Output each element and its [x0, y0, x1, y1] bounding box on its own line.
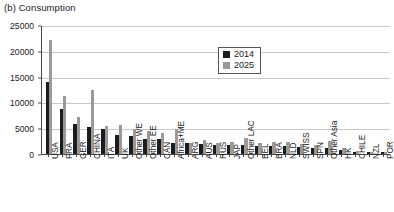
x-tick-mark	[341, 154, 342, 157]
x-tick-label: CAN	[163, 142, 172, 159]
y-tick-label: 5000	[15, 124, 34, 134]
y-tick-label: 25000	[10, 21, 34, 31]
x-tick-mark	[104, 154, 105, 157]
legend-entry-2025: 2025	[223, 61, 254, 70]
chart-title: (b) Consumption	[4, 2, 76, 13]
x-tick-label: NZL	[372, 144, 381, 159]
x-tick-label: Other EE	[149, 125, 158, 159]
x-tick-mark	[160, 154, 161, 157]
x-axis: USAFRAGERCHINAITAUKOther WEOther EECANAf…	[41, 157, 390, 212]
y-tick-label: 15000	[10, 73, 34, 83]
x-tick-mark	[76, 154, 77, 157]
bar-group	[223, 26, 237, 154]
chart-legend: 20142025	[218, 47, 261, 74]
x-tick-label: Other WE	[135, 123, 144, 159]
x-tick-label: GER	[79, 141, 88, 159]
x-tick-mark	[174, 154, 175, 157]
x-tick-label: NLD	[289, 143, 298, 159]
x-tick-label: POR	[386, 141, 394, 159]
legend-label: 2014	[234, 50, 254, 59]
y-tick-label: 10000	[10, 98, 34, 108]
bar-group	[196, 26, 210, 154]
x-tick-label: Other LAC	[247, 120, 256, 159]
y-tick-label: 0	[29, 150, 34, 160]
bar-group	[70, 26, 84, 154]
legend-label: 2025	[234, 61, 254, 70]
bar-group	[42, 26, 56, 154]
x-tick-label: CHINA	[93, 134, 102, 159]
x-tick-mark	[118, 154, 119, 157]
consumption-bar-chart-figure: (b) Consumption 050001000015000200002500…	[0, 0, 394, 212]
x-tick-mark	[188, 154, 189, 157]
x-tick-label: USA	[51, 142, 60, 159]
x-tick-mark	[202, 154, 203, 157]
x-tick-mark	[132, 154, 133, 157]
bar-group	[279, 26, 293, 154]
x-tick-mark	[285, 154, 286, 157]
x-tick-mark	[299, 154, 300, 157]
x-tick-label: Other Asia	[330, 121, 339, 159]
x-tick-label: SWISS	[302, 133, 311, 159]
x-tick-mark	[243, 154, 244, 157]
legend-entry-2014: 2014	[223, 50, 254, 59]
x-tick-label: FRA	[65, 143, 74, 159]
x-tick-mark	[369, 154, 370, 157]
x-tick-label: UK	[121, 148, 130, 159]
x-tick-mark	[90, 154, 91, 157]
x-tick-mark	[229, 154, 230, 157]
x-tick-mark	[271, 154, 272, 157]
y-tick-label: 20000	[10, 47, 34, 57]
y-axis: 0500010000150002000025000	[0, 26, 38, 155]
x-tick-mark	[327, 154, 328, 157]
legend-swatch-icon	[223, 51, 230, 58]
x-tick-mark	[146, 154, 147, 157]
x-tick-mark	[383, 154, 384, 157]
x-tick-label: SPN	[316, 142, 325, 159]
x-tick-label: RUS	[219, 142, 228, 159]
x-tick-mark	[257, 154, 258, 157]
x-tick-mark	[216, 154, 217, 157]
x-tick-mark	[313, 154, 314, 157]
x-tick-mark	[355, 154, 356, 157]
bar-group	[112, 26, 126, 154]
x-tick-label: HK	[344, 148, 353, 159]
bar-2025-usa	[49, 40, 52, 154]
x-tick-mark	[48, 154, 49, 157]
x-tick-label: JAP	[233, 144, 242, 159]
legend-swatch-icon	[223, 62, 230, 69]
bar-group	[265, 26, 279, 154]
x-tick-label: BRA	[275, 142, 284, 159]
x-tick-label: Africa+ME	[177, 121, 186, 159]
x-tick-mark	[62, 154, 63, 157]
x-tick-label: AUS	[205, 142, 214, 159]
bar-group	[210, 26, 224, 154]
bar-group	[56, 26, 70, 154]
bar-group	[377, 26, 391, 154]
x-tick-label: ITA	[107, 147, 116, 159]
x-tick-label: ARG	[191, 141, 200, 159]
x-tick-label: CHILE	[358, 135, 367, 159]
x-tick-label: BEL	[261, 144, 270, 159]
